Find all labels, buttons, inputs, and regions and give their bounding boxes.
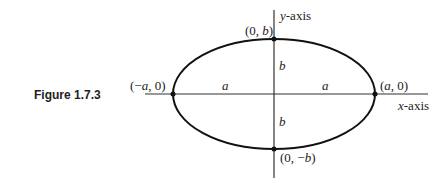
semi-minor-top-label: b <box>279 58 286 73</box>
x-axis-label: x-axis <box>397 98 429 113</box>
vertex-point-right <box>373 92 378 97</box>
y-axis-label: y-axis <box>278 8 311 23</box>
vertex-point-bottom <box>272 147 277 152</box>
right-vertex-label: (a, 0) <box>380 78 408 93</box>
semi-minor-bottom-label: b <box>279 114 286 129</box>
bottom-vertex-label: (0, −b) <box>280 150 316 165</box>
ellipse-diagram: y-axis x-axis (0, b) (0, −b) (−a, 0) (a,… <box>0 0 439 183</box>
left-vertex-label: (−a, 0) <box>130 78 166 93</box>
semi-major-left-label: a <box>222 78 229 93</box>
semi-major-right-label: a <box>322 78 329 93</box>
top-vertex-label: (0, b) <box>245 23 273 38</box>
vertex-point-left <box>171 92 176 97</box>
